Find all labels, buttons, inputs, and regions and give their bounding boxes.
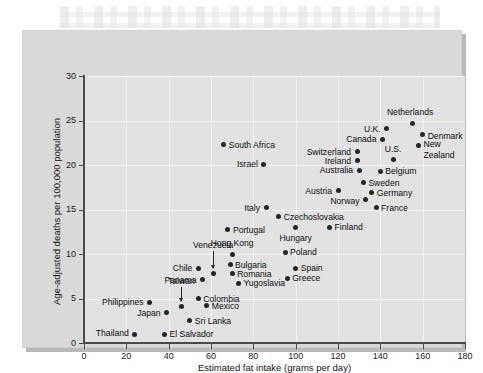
label-leader-arrowhead <box>211 265 215 269</box>
data-point-label: El Salvador <box>169 330 213 339</box>
x-axis-tick-label: 40 <box>149 352 189 361</box>
x-axis-tick <box>296 344 297 349</box>
data-point-label: Chile <box>173 264 193 273</box>
data-point-label: Sri Lanka <box>195 316 231 325</box>
data-point-label: Czechoslovakia <box>284 212 344 221</box>
y-axis-tick <box>79 165 84 166</box>
data-point[interactable] <box>132 332 137 337</box>
x-axis-tick <box>380 344 381 349</box>
data-point[interactable] <box>293 266 298 271</box>
data-point-label: Philippines <box>102 298 144 307</box>
data-point[interactable] <box>162 332 167 337</box>
y-axis-tick-label: 30 <box>38 72 76 81</box>
data-point-label: Germany <box>377 188 412 197</box>
data-point[interactable] <box>283 250 288 255</box>
y-axis-tick <box>79 254 84 255</box>
data-point-label: Romania <box>237 269 271 278</box>
x-axis-tick <box>423 344 424 349</box>
data-point[interactable] <box>374 205 379 210</box>
data-point-label: Japan <box>137 308 160 317</box>
background-texture <box>60 6 440 28</box>
data-point-label: Bulgaria <box>235 260 267 269</box>
data-point-label: Poland <box>290 248 317 257</box>
x-axis-tick <box>253 344 254 349</box>
data-point-label: Australia <box>320 166 353 175</box>
y-axis-tick <box>79 210 84 211</box>
data-point-label: U.K. <box>364 124 381 133</box>
x-axis-tick <box>211 344 212 349</box>
y-axis-tick-label: 20 <box>38 161 76 170</box>
x-axis-tick-label: 160 <box>403 352 443 361</box>
data-point[interactable] <box>147 300 152 305</box>
gridline-horizontal <box>84 121 465 122</box>
y-axis-tick-label: 25 <box>38 116 76 125</box>
data-point[interactable] <box>355 158 360 163</box>
data-point-label: Thailand <box>96 329 129 338</box>
gridline-vertical <box>296 76 297 343</box>
data-point-label: Canada <box>346 135 376 144</box>
x-axis-tick <box>338 344 339 349</box>
data-point[interactable] <box>236 281 241 286</box>
data-point[interactable] <box>416 143 421 148</box>
data-point-label: Norway <box>330 196 359 205</box>
gridline-vertical <box>338 76 339 343</box>
data-point[interactable] <box>211 271 216 276</box>
x-axis-tick <box>465 344 466 349</box>
x-axis-tick-label: 60 <box>191 352 231 361</box>
data-point[interactable] <box>378 169 383 174</box>
data-point-label: Colombia <box>203 294 239 303</box>
data-point[interactable] <box>196 296 201 301</box>
data-point[interactable] <box>327 225 332 230</box>
data-point[interactable] <box>355 149 360 154</box>
chart-figure-panel: Estimated fat intake (grams per day) Age… <box>22 30 462 348</box>
data-point-label: Switzerland <box>307 147 351 156</box>
data-point-label: Italy <box>244 203 260 212</box>
data-point[interactable] <box>264 205 269 210</box>
y-axis-tick <box>79 76 84 77</box>
data-point-label: Belgium <box>385 167 416 176</box>
y-axis-tick-label: 5 <box>38 294 76 303</box>
data-point[interactable] <box>285 276 290 281</box>
x-axis-line <box>83 342 466 344</box>
data-point[interactable] <box>357 168 362 173</box>
x-axis-tick-label: 140 <box>360 352 400 361</box>
data-point[interactable] <box>391 157 396 162</box>
y-axis-tick-label: 0 <box>38 339 76 348</box>
y-axis-tick <box>79 299 84 300</box>
x-axis-tick-label: 180 <box>445 352 483 361</box>
data-point-label: Spain <box>301 264 323 273</box>
data-point-label: U.S. <box>385 144 402 153</box>
gridline-horizontal <box>84 254 465 255</box>
x-axis-tick <box>169 344 170 349</box>
x-axis-tick-label: 20 <box>106 352 146 361</box>
data-point-label: Denmark <box>428 131 463 140</box>
data-point-label: Sweden <box>368 178 399 187</box>
data-point[interactable] <box>230 271 235 276</box>
x-axis-tick <box>84 344 85 349</box>
data-point[interactable] <box>410 121 415 126</box>
data-point[interactable] <box>380 137 385 142</box>
data-point-label: Panama <box>165 275 197 284</box>
y-axis-tick-label: 10 <box>38 250 76 259</box>
y-axis-tick-label: 15 <box>38 205 76 214</box>
x-axis-tick-label: 100 <box>276 352 316 361</box>
data-point-label: Hong Kong <box>211 239 254 248</box>
data-point-label: New <box>423 140 440 149</box>
data-point-label: Zealand <box>423 151 454 160</box>
data-point[interactable] <box>230 252 235 257</box>
data-point-label: Ireland <box>325 156 351 165</box>
data-point[interactable] <box>293 225 298 230</box>
data-point[interactable] <box>179 304 184 309</box>
data-point-label: Hungary <box>279 234 311 243</box>
data-point-label: Portugal <box>233 225 265 234</box>
x-axis-title: Estimated fat intake (grams per day) <box>84 362 465 373</box>
data-point-label: Netherlands <box>387 108 433 117</box>
data-point[interactable] <box>336 188 341 193</box>
data-point[interactable] <box>228 262 233 267</box>
data-point[interactable] <box>196 266 201 271</box>
gridline-horizontal <box>84 76 465 77</box>
y-axis-tick <box>79 121 84 122</box>
data-point-label: Austria <box>305 186 332 195</box>
x-axis-tick-label: 80 <box>233 352 273 361</box>
